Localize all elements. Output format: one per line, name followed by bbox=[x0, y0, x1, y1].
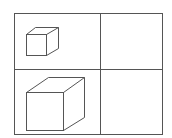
cube-grid-diagram bbox=[0, 0, 172, 138]
large-cube-icon bbox=[27, 78, 85, 131]
grid-border bbox=[15, 14, 163, 135]
small-cube-icon bbox=[27, 28, 59, 56]
